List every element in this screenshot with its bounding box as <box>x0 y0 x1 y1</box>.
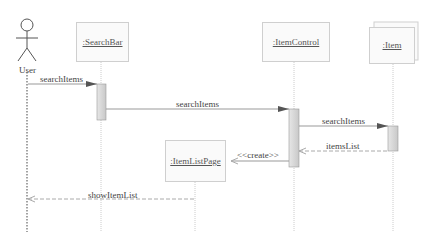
message-label: showItemList <box>88 190 138 200</box>
actor-label: User <box>19 65 36 75</box>
lifeline-label: :ItemControl <box>263 37 329 47</box>
lifeline-searchbar-box[interactable]: :SearchBar <box>76 22 129 62</box>
item-activation <box>388 126 398 151</box>
itemcontrol-activation <box>289 109 299 167</box>
actor-user-icon <box>16 19 38 61</box>
message-label: searchItems <box>322 116 365 126</box>
lifeline-itemlistpage-box[interactable]: :ItemListPage <box>165 140 226 182</box>
searchbar-activation <box>97 84 106 120</box>
sequence-diagram-canvas <box>0 0 432 242</box>
message-label: searchItems <box>176 99 219 109</box>
lifeline-label: :SearchBar <box>77 37 128 47</box>
lifeline-item-box[interactable]: :Item <box>369 27 415 64</box>
lifeline-label: :Item <box>370 40 414 50</box>
lifeline-label: :ItemListPage <box>166 156 225 166</box>
message-label: searchItems <box>40 74 83 84</box>
lifeline-itemcontrol-box[interactable]: :ItemControl <box>262 22 330 62</box>
message-label: itemsList <box>326 141 360 151</box>
message-label: <<create>> <box>237 150 279 160</box>
